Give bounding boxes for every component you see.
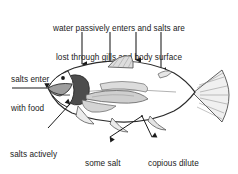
fish-caudal-fin xyxy=(193,70,229,122)
urine-line-1: copious dilute xyxy=(148,159,199,169)
fish-illustration xyxy=(48,56,229,132)
salts-food-line-1: salts enter xyxy=(11,75,49,85)
salts-gills-leader xyxy=(48,104,70,128)
osmoregulation-diagram: water passively enters and salts are los… xyxy=(0,0,238,174)
label-salts-taken-up-by-gills: salts actively taken up by gills xyxy=(10,131,57,174)
label-salts-enter-with-food: salts enter with food xyxy=(11,56,49,133)
salts-food-line-2: with food xyxy=(11,104,49,114)
faeces-line-1: some salt xyxy=(85,159,121,169)
label-some-salt-in-faeces: some salt in faeces xyxy=(85,140,121,174)
label-copious-dilute-urine: copious dilute urine xyxy=(148,140,199,174)
fish-eye xyxy=(61,76,65,80)
salts-gills-line-1: salts actively xyxy=(10,150,57,160)
